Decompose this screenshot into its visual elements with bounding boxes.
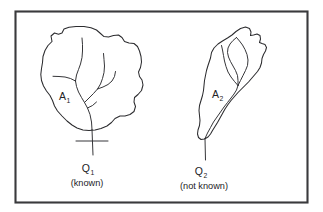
discharge-caption-left: (known) (71, 178, 104, 188)
discharge-label-right-letter: Q (195, 165, 203, 177)
figure-container: A1 Q1 (known) A2 Q2 (not (0, 0, 323, 212)
discharge-label-left-subscript: 1 (90, 169, 94, 176)
discharge-caption-right: (not known) (180, 181, 228, 191)
discharge-label-left-letter: Q (82, 162, 90, 174)
watershed-diagram: A1 Q1 (known) A2 Q2 (not (0, 0, 323, 212)
area-label-left-subscript: 1 (67, 97, 71, 104)
area-label-right-subscript: 2 (220, 95, 224, 102)
figure-border (16, 12, 308, 203)
discharge-label-right-subscript: 2 (203, 172, 207, 179)
area-label-left-letter: A (59, 90, 66, 102)
outlet-channel-right (205, 139, 206, 161)
area-label-right-letter: A (212, 88, 219, 100)
